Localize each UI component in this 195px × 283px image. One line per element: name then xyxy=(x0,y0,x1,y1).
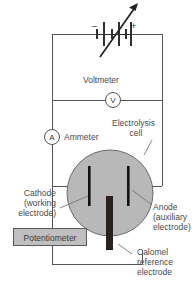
cathode-electrode-bar xyxy=(88,166,91,206)
leader-cell xyxy=(144,140,152,155)
voltmeter-label: Voltmeter xyxy=(83,76,119,86)
supply-positive-sign: + xyxy=(131,22,136,31)
supply-negative-sign: – xyxy=(92,22,97,31)
voltmeter-symbol-letter: V xyxy=(106,96,120,105)
cell-label-line2: cell xyxy=(112,129,160,139)
cathode-label-line3: electrode) xyxy=(0,209,56,219)
anode-electrode-bar xyxy=(127,166,130,206)
ammeter-symbol-letter: A xyxy=(45,133,59,142)
potentiometer-label: Potentiometer xyxy=(14,233,86,243)
leader-reference xyxy=(118,244,132,254)
ammeter-label: Ammeter xyxy=(64,133,98,143)
reference-electrode-bar xyxy=(106,196,113,250)
reference-label-line3: electrode xyxy=(137,268,172,278)
potentiometer-box[interactable]: Potentiometer xyxy=(13,228,87,246)
anode-label-line3: electrode) xyxy=(153,223,191,233)
figure-canvas: – + Voltmeter V Ammeter A Electrolysis c… xyxy=(0,0,195,283)
